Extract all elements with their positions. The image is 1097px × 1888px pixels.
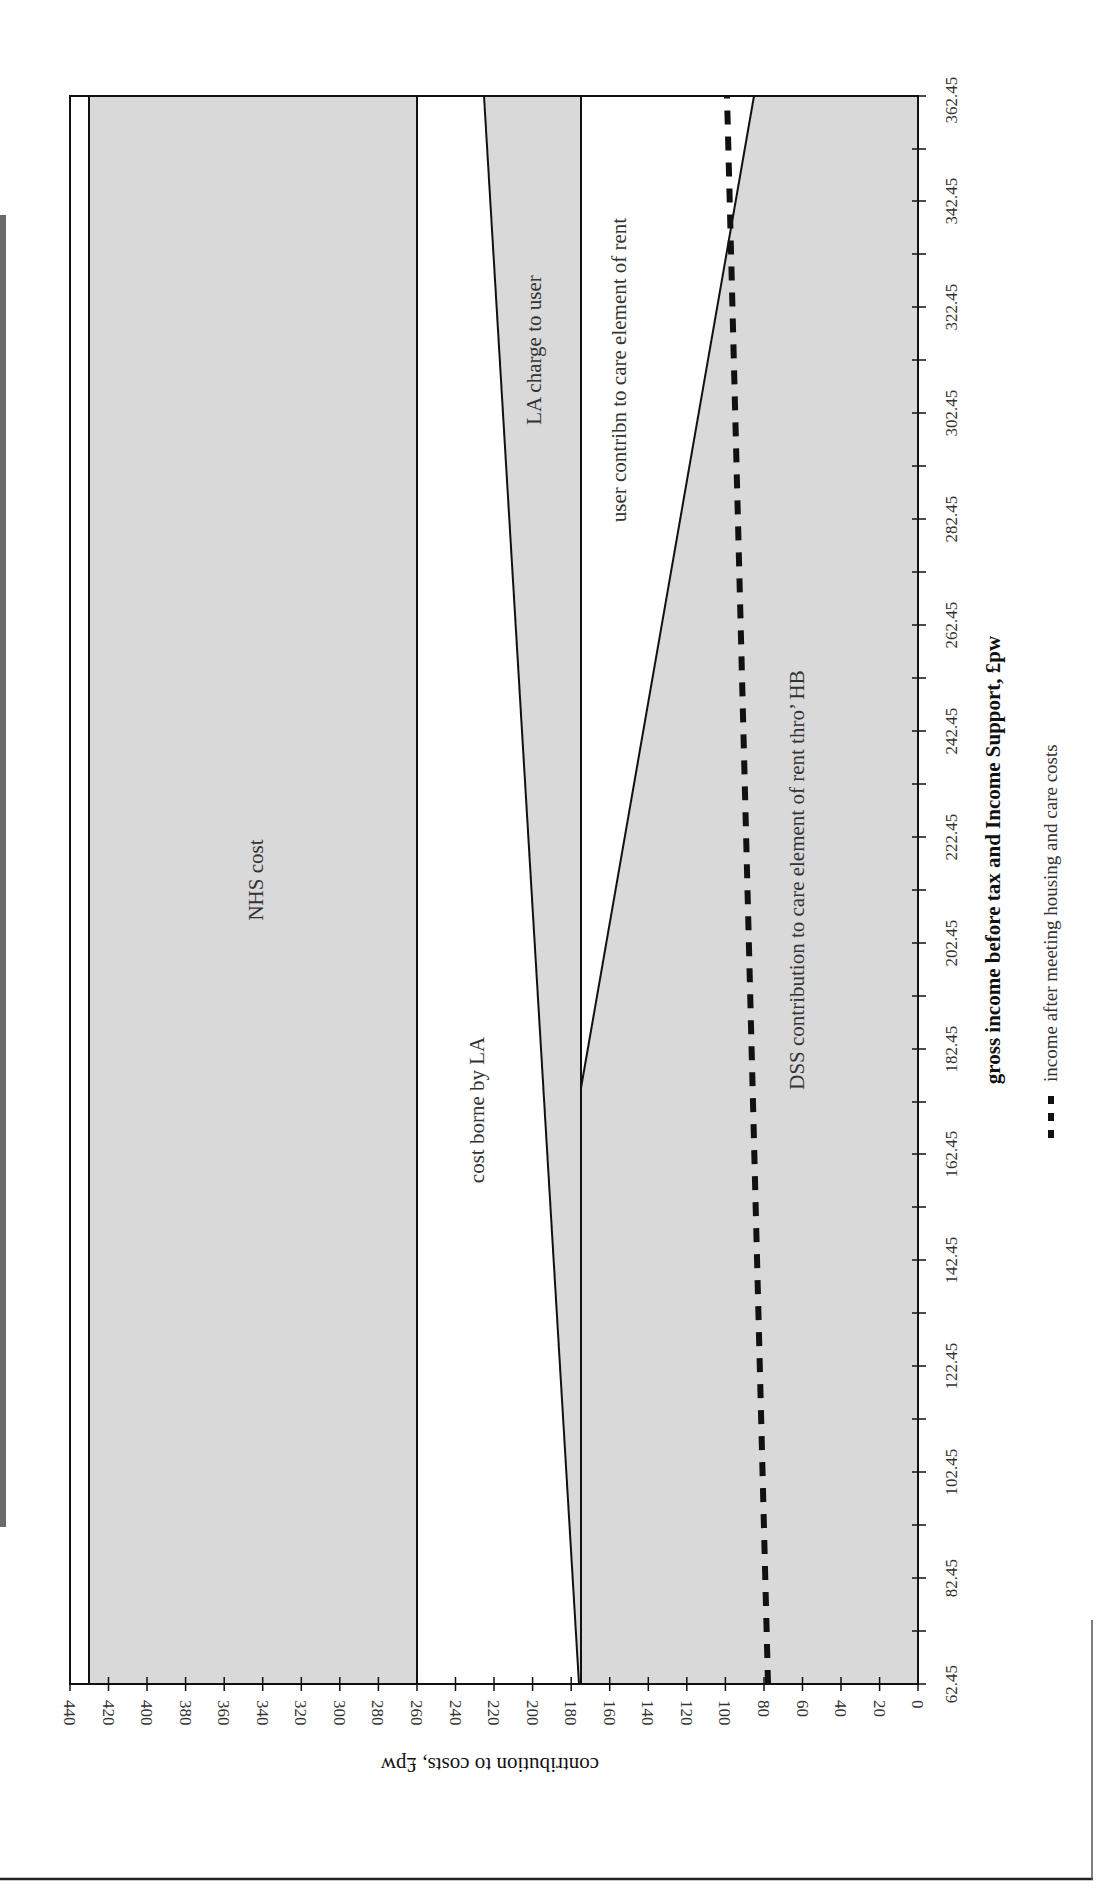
x-tick-label: 362.45 [942, 77, 961, 124]
page-edge-bar [0, 215, 6, 1527]
y-tick-label: 240 [446, 1700, 465, 1726]
legend: income after meeting housing and care co… [1040, 744, 1061, 1138]
y-tick-label: 360 [214, 1700, 233, 1726]
x-tick-label: 302.45 [942, 390, 961, 437]
x-tick-label: 182.45 [942, 1026, 961, 1073]
y-tick-label: 40 [831, 1700, 850, 1717]
x-axis-title: gross income before tax and Income Suppo… [981, 635, 1005, 1084]
y-tick-label: 260 [407, 1700, 426, 1726]
legend-label: income after meeting housing and care co… [1040, 744, 1061, 1082]
income-tick-labels: 62.45 82.45 102.45 122.45 142.45 162.45 … [942, 77, 961, 1704]
y-tick-label: 280 [368, 1700, 387, 1726]
x-tick-label: 282.45 [942, 496, 961, 543]
x-tick-label: 62.45 [942, 1665, 961, 1703]
region-label-la-charge: LA charge to user [522, 275, 546, 424]
y-tick-label: 120 [677, 1700, 696, 1726]
x-tick-label: 342.45 [942, 178, 961, 225]
y-tick-label: 380 [176, 1700, 195, 1726]
y-tick-label: 220 [484, 1700, 503, 1726]
x-tick-label: 142.45 [942, 1237, 961, 1284]
y-tick-label: 60 [793, 1700, 812, 1717]
y-tick-label: 80 [754, 1700, 773, 1717]
y-tick-label: 440 [60, 1700, 79, 1726]
y-tick-label: 20 [870, 1700, 889, 1717]
region-label-nhs: NHS cost [244, 839, 268, 920]
y-tick-label: 320 [291, 1700, 310, 1726]
x-tick-label: 222.45 [942, 814, 961, 861]
y-tick-label: 400 [137, 1700, 156, 1726]
x-tick-label: 262.45 [942, 602, 961, 649]
y-tick-label: 140 [638, 1700, 657, 1726]
region-label-la-cost: cost borne by LA [465, 1036, 489, 1183]
y-tick-label: 340 [253, 1700, 272, 1726]
y-tick-label: 100 [715, 1700, 734, 1726]
y-tick-label: 180 [561, 1700, 580, 1726]
region-label-user-contrib: user contribn to care element of rent [607, 218, 631, 523]
y-tick-label: 200 [523, 1700, 542, 1726]
chart: 62.45 82.45 102.45 122.45 142.45 162.45 … [0, 0, 1097, 1888]
y-axis-title: contribution to costs, £pw [380, 1753, 599, 1777]
x-tick-label: 82.45 [942, 1559, 961, 1597]
x-tick-label: 122.45 [942, 1343, 961, 1390]
y-tick-label: 160 [600, 1700, 619, 1726]
y-tick-label: 300 [330, 1700, 349, 1726]
contribution-tick-labels: 0 20 40 60 80 100 120 140 160 180 200 22… [60, 1700, 927, 1726]
x-tick-label: 242.45 [942, 708, 961, 755]
y-tick-label: 420 [99, 1700, 118, 1726]
x-tick-label: 162.45 [942, 1131, 961, 1178]
region-label-dss: DSS contribution to care element of rent… [785, 670, 809, 1090]
x-tick-label: 202.45 [942, 920, 961, 967]
y-tick-label: 0 [908, 1700, 927, 1709]
x-tick-label: 322.45 [942, 284, 961, 331]
x-tick-label: 102.45 [942, 1449, 961, 1496]
region-dss [581, 96, 918, 1684]
